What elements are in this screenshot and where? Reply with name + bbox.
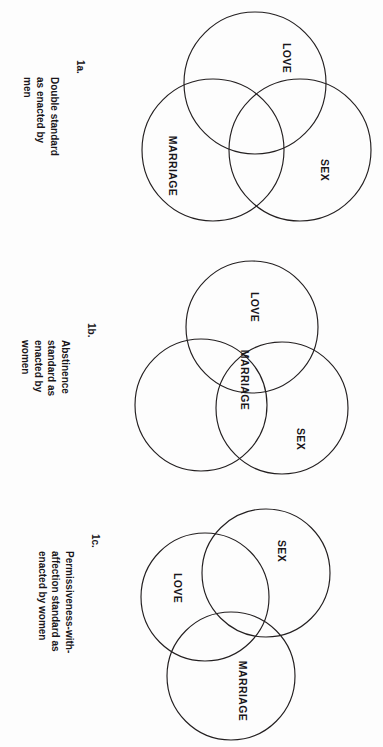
figure-page: LOVE SEX MARRIAGE 1a. Double standard as…: [0, 0, 383, 747]
venn-label-sex-1c: SEX: [276, 540, 288, 562]
venn-label-marriage-1b: MARRIAGE: [239, 350, 251, 410]
figure-canvas: LOVE SEX MARRIAGE 1a. Double standard as…: [0, 0, 383, 747]
venn-label-sex-1a: SEX: [319, 159, 331, 181]
caption-body-1b: Abstinence standard as enacted by women: [19, 340, 72, 473]
caption-1c: 1c. Permissiveness-with- affection stand…: [23, 534, 102, 724]
venn-label-marriage-1a: MARRIAGE: [167, 136, 179, 196]
caption-1a: 1a. Double standard as enacted by men: [8, 60, 87, 230]
venn-panel-1b: LOVE SEX MARRIAGE 1b. Abstinence standar…: [0, 249, 383, 498]
venn-label-love-1c: LOVE: [172, 573, 184, 603]
circle-love-1a: [184, 12, 326, 154]
caption-number-1a: 1a.: [74, 60, 87, 74]
venn-label-marriage-1c: MARRIAGE: [237, 661, 249, 721]
caption-body-1a: Double standard as enacted by men: [21, 77, 61, 230]
caption-number-1b: 1b.: [85, 323, 98, 337]
circle-sex-1a: [229, 79, 371, 221]
caption-number-1c: 1c.: [89, 534, 102, 548]
venn-label-sex-1b: SEX: [295, 428, 307, 450]
circle-love-1b: [186, 261, 318, 393]
circle-marriage-1c: [167, 612, 295, 740]
venn-label-love-1b: LOVE: [249, 292, 261, 322]
circle-marriage-1a: [142, 79, 284, 221]
venn-panel-1a: LOVE SEX MARRIAGE 1a. Double standard as…: [0, 0, 383, 249]
circle-sex-1b: [216, 342, 348, 474]
caption-body-1c: Permissiveness-with- affection standard …: [36, 551, 76, 724]
caption-1b: 1b. Abstinence standard as enacted by wo…: [6, 323, 98, 473]
venn-label-love-1a: LOVE: [281, 43, 293, 73]
venn-panel-1c: SEX LOVE MARRIAGE 1c. Permissiveness-wit…: [0, 498, 383, 747]
